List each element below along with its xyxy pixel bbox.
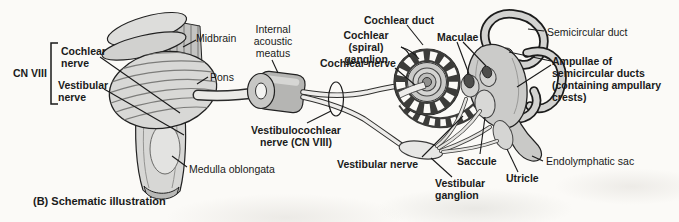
label-midbrain: Midbrain: [196, 32, 236, 44]
label-pons: Pons: [210, 71, 234, 83]
label-vestibular-nerve: Vestibular nerve: [337, 158, 418, 170]
label-semicircular-duct: Semicircular duct: [547, 26, 628, 38]
label-cn-viii: CN VIII: [13, 67, 47, 79]
label-cochlear-nerve: Cochlear nerve: [320, 57, 396, 69]
label-utricle: Utricle: [506, 172, 539, 184]
cn-viii-bracket: [51, 43, 58, 104]
label-internal-acoustic-meatus: Internal acoustic meatus: [243, 23, 303, 59]
label-vestibulocochlear-nerve: Vestibulocochlear nerve (CN VIII): [246, 124, 346, 148]
label-cochlear-nerve-brainstem: Cochlear nerve: [61, 45, 106, 69]
label-vestibular-nerve-brainstem: Vestibular nerve: [58, 79, 108, 103]
figure-caption: (B) Schematic illustration: [33, 195, 166, 208]
label-vestibular-ganglion: Vestibular ganglion: [435, 177, 485, 201]
label-maculae: Maculae: [437, 31, 478, 43]
label-endolymphatic-sac: Endolymphatic sac: [546, 155, 634, 167]
label-cochlear-duct: Cochlear duct: [364, 14, 434, 26]
label-medulla-oblongata: Medulla oblongata: [189, 163, 275, 175]
cochlea-drawing: [394, 49, 460, 115]
label-saccule: Saccule: [457, 155, 497, 167]
label-ampullae: Ampullae of semicircular ducts (containi…: [552, 55, 661, 103]
internal-acoustic-meatus-drawing: [248, 70, 307, 113]
figure-panel: CN VIII Cochlear nerve Vestibular nerve …: [0, 0, 679, 222]
